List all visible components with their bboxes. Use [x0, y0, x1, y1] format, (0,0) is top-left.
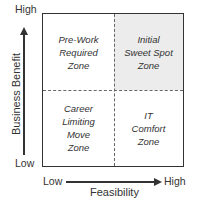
x-axis-arrowhead-icon: [154, 178, 162, 186]
quadrant-grid: Pre-Work Required Zone Initial Sweet Spo…: [42, 13, 184, 167]
y-axis-high-label: High: [15, 3, 37, 15]
quadrant-initial-sweet-spot: Initial Sweet Spot Zone: [114, 14, 183, 90]
horizontal-divider: [43, 90, 183, 91]
x-axis-line: [66, 181, 154, 183]
x-axis-high-label: High: [164, 175, 186, 187]
y-axis-low-label: Low: [15, 157, 34, 169]
x-axis-title: Feasibility: [90, 186, 139, 198]
quadrant-pre-work-required: Pre-Work Required Zone: [43, 14, 114, 90]
y-axis-title: Business Benefit: [10, 49, 22, 139]
y-axis-line: [23, 33, 25, 155]
quadrant-career-limiting-move: Career Limiting Move Zone: [43, 90, 114, 166]
x-axis-low-label: Low: [43, 175, 62, 187]
quadrant-it-comfort: IT Comfort Zone: [114, 90, 183, 166]
